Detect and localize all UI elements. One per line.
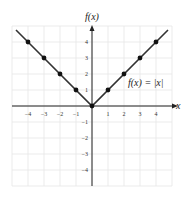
- y-axis-label: f(x): [85, 11, 100, 23]
- svg-text:2: 2: [85, 71, 88, 77]
- x-axis-label: x: [175, 100, 181, 111]
- svg-text:−1: −1: [82, 119, 88, 125]
- svg-text:−3: −3: [41, 111, 47, 117]
- svg-text:−4: −4: [82, 167, 88, 173]
- svg-text:−2: −2: [57, 111, 63, 117]
- svg-text:−3: −3: [82, 151, 88, 157]
- axes: [12, 25, 178, 186]
- svg-text:−1: −1: [73, 111, 79, 117]
- svg-text:−2: −2: [82, 135, 88, 141]
- svg-text:−4: −4: [25, 111, 31, 117]
- svg-text:4: 4: [155, 111, 158, 117]
- function-label: f(x) = |x|: [128, 77, 164, 89]
- svg-text:1: 1: [85, 87, 88, 93]
- svg-text:2: 2: [123, 111, 126, 117]
- svg-text:3: 3: [85, 55, 88, 61]
- svg-text:1: 1: [107, 111, 110, 117]
- svg-text:3: 3: [139, 111, 142, 117]
- svg-text:4: 4: [85, 39, 88, 45]
- absolute-value-graph: −4−3−2−112344321−1−2−3−4 f(x) x f(x) = |…: [0, 0, 182, 198]
